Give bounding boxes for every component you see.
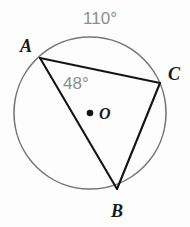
- vertex-label-C: C: [168, 64, 181, 84]
- vertex-label-A: A: [19, 36, 32, 56]
- center-point-dot: [87, 110, 94, 117]
- chord-CB: [117, 83, 160, 189]
- geometry-figure: O A C B 110° 48°: [0, 0, 190, 227]
- center-point-label: O: [99, 105, 111, 122]
- arc-AC-measure-label: 110°: [83, 9, 117, 28]
- vertex-label-B: B: [110, 201, 123, 221]
- chord-AC: [40, 58, 160, 83]
- geometry-diagram-canvas: O A C B 110° 48°: [0, 0, 190, 227]
- inscribed-angle-A-measure-label: 48°: [63, 74, 89, 93]
